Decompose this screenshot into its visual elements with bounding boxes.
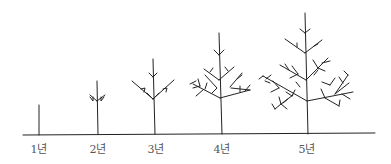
stage-label-year-4: 4년 [214, 140, 231, 156]
stage-label-year-5: 5년 [299, 140, 316, 156]
tree-year-2 [90, 81, 105, 134]
stage-label-year-3: 3년 [148, 140, 165, 156]
tree-year-3 [132, 59, 174, 134]
tree-drawing [0, 0, 391, 164]
ground-line [23, 133, 375, 135]
stage-label-year-2: 2년 [90, 140, 107, 156]
tree-year-5 [259, 13, 353, 134]
tree-year-4 [190, 33, 250, 134]
stage-label-year-1: 1년 [31, 140, 48, 156]
tree-growth-diagram: 1년 2년 3년 4년 5년 [0, 0, 391, 164]
